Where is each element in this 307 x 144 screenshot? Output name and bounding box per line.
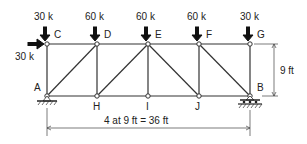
load-arrow-C xyxy=(40,27,50,41)
node-G xyxy=(248,42,252,46)
node-E xyxy=(146,42,150,46)
load-label-C-horizontal: 30 k xyxy=(15,51,35,62)
load-arrow-E xyxy=(141,27,151,41)
load-label-D: 60 k xyxy=(85,11,105,22)
node-label-E: E xyxy=(155,29,162,40)
node-I xyxy=(146,94,150,98)
load-arrow-F xyxy=(192,27,202,41)
height-label: 9 ft xyxy=(280,65,294,76)
node-label-H: H xyxy=(93,101,100,112)
node-H xyxy=(95,94,99,98)
node-label-F: F xyxy=(206,29,212,40)
load-label-F: 60 k xyxy=(187,11,207,22)
load-label-E: 60 k xyxy=(136,11,156,22)
load-arrow-D xyxy=(90,27,100,41)
node-D xyxy=(95,42,99,46)
member-AD xyxy=(47,44,97,96)
span-label: 4 at 9 ft = 36 ft xyxy=(104,115,168,126)
node-label-A: A xyxy=(34,82,41,93)
node-label-I: I xyxy=(146,101,149,112)
roller-support-B xyxy=(238,96,262,108)
node-label-J: J xyxy=(195,101,200,112)
load-label-C: 30 k xyxy=(34,11,54,22)
truss-diagram: 30 k 60 k 60 k 60 k 30 k 30 k C D E F G … xyxy=(0,0,307,144)
member-EJ xyxy=(148,44,199,96)
member-HE xyxy=(97,44,148,96)
node-label-B: B xyxy=(257,82,264,93)
load-label-G: 30 k xyxy=(240,11,260,22)
pin-support-A xyxy=(37,96,57,105)
member-FB xyxy=(199,44,250,96)
node-C xyxy=(45,42,49,46)
node-label-C: C xyxy=(54,29,61,40)
load-arrow-G xyxy=(243,27,253,41)
node-F xyxy=(197,42,201,46)
node-J xyxy=(197,94,201,98)
load-arrow-C-horizontal xyxy=(28,39,44,49)
node-label-D: D xyxy=(104,29,111,40)
node-label-G: G xyxy=(257,29,265,40)
